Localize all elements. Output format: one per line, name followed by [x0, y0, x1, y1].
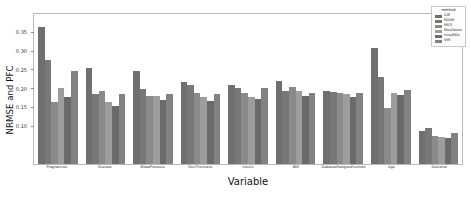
bar[interactable]: [181, 82, 188, 164]
bar[interactable]: [86, 68, 93, 164]
bar-group: [82, 14, 130, 164]
bar[interactable]: [302, 96, 309, 164]
bar[interactable]: [214, 94, 221, 165]
bar-group: [367, 14, 415, 164]
bar[interactable]: [45, 60, 52, 164]
bar[interactable]: [38, 27, 45, 164]
bar[interactable]: [391, 93, 398, 164]
bar[interactable]: [282, 91, 289, 165]
legend-swatch-icon: [435, 40, 442, 43]
bar[interactable]: [58, 88, 65, 164]
bar[interactable]: [289, 87, 296, 164]
legend-label: RDAM: [444, 19, 454, 22]
bar[interactable]: [160, 100, 167, 165]
bar[interactable]: [248, 97, 255, 165]
legend-label: VIM: [444, 39, 450, 42]
legend-label: GIR: [444, 14, 450, 17]
legend-title: method: [435, 9, 462, 13]
bar[interactable]: [445, 138, 452, 164]
bar-groups: [34, 14, 462, 164]
bar[interactable]: [451, 133, 458, 165]
bar[interactable]: [133, 71, 140, 164]
bar[interactable]: [51, 102, 58, 164]
bar[interactable]: [92, 94, 99, 165]
legend-item[interactable]: VIM: [435, 39, 462, 44]
bar[interactable]: [241, 93, 248, 164]
legend-swatch-icon: [435, 25, 442, 28]
bar[interactable]: [337, 93, 344, 164]
bar[interactable]: [384, 108, 391, 164]
x-axis-title: Variable: [33, 176, 463, 187]
bar[interactable]: [99, 91, 106, 165]
y-axis-title: NRMSE and PFC: [2, 0, 16, 199]
bar[interactable]: [343, 94, 350, 165]
bar-group: [129, 14, 177, 164]
legend-swatch-icon: [435, 15, 442, 18]
bar[interactable]: [235, 88, 242, 165]
legend-label: MissForest: [444, 29, 462, 32]
legend-label: MICE: [444, 24, 452, 27]
bar-group: [34, 14, 82, 164]
bar[interactable]: [356, 93, 363, 164]
bar-group: [224, 14, 272, 164]
bar[interactable]: [153, 96, 160, 164]
bar[interactable]: [432, 136, 439, 165]
bar-group: [272, 14, 320, 164]
bar[interactable]: [371, 48, 378, 164]
bar[interactable]: [119, 94, 126, 164]
legend-swatch-icon: [435, 35, 442, 38]
bar[interactable]: [330, 92, 337, 164]
legend-swatch-icon: [435, 30, 442, 33]
bar[interactable]: [425, 128, 432, 164]
y-axis-tick-label: 0.15: [16, 105, 27, 110]
bar[interactable]: [71, 71, 78, 164]
legend[interactable]: method GIRRDAMMICEMissForestmissMDAVIM: [431, 6, 466, 47]
chart-figure: NRMSE and PFC 0.100.150.200.250.300.35 P…: [0, 0, 471, 199]
bar[interactable]: [200, 97, 207, 164]
y-axis-tick-label: 0.35: [16, 30, 27, 35]
bar[interactable]: [140, 89, 147, 164]
legend-rows: GIRRDAMMICEMissForestmissMDAVIM: [435, 14, 462, 44]
bar-group: [177, 14, 225, 164]
bar[interactable]: [378, 77, 385, 164]
bar-group: [319, 14, 367, 164]
bar[interactable]: [350, 97, 357, 164]
y-axis-tick-label: 0.20: [16, 86, 27, 91]
y-axis-tick-label: 0.10: [16, 124, 27, 129]
bar[interactable]: [187, 85, 194, 165]
bar[interactable]: [296, 91, 303, 165]
bar[interactable]: [276, 81, 283, 164]
bar[interactable]: [194, 93, 201, 164]
bar[interactable]: [166, 94, 173, 164]
bar[interactable]: [438, 137, 445, 164]
y-axis-tick-label: 0.30: [16, 49, 27, 54]
bar[interactable]: [309, 93, 316, 164]
bar[interactable]: [228, 85, 235, 165]
bar[interactable]: [323, 91, 330, 165]
legend-swatch-icon: [435, 20, 442, 23]
bar[interactable]: [404, 90, 411, 164]
bar[interactable]: [207, 101, 214, 164]
y-axis-tick-label: 0.25: [16, 67, 27, 72]
bar[interactable]: [105, 102, 112, 164]
bar[interactable]: [64, 97, 71, 165]
bar[interactable]: [261, 88, 268, 164]
bar[interactable]: [255, 99, 262, 164]
plot-area: 0.100.150.200.250.300.35: [33, 13, 463, 165]
bar[interactable]: [419, 131, 426, 164]
bar[interactable]: [112, 106, 119, 165]
legend-label: missMDA: [444, 34, 460, 37]
bar[interactable]: [397, 95, 404, 164]
bar[interactable]: [146, 96, 153, 164]
